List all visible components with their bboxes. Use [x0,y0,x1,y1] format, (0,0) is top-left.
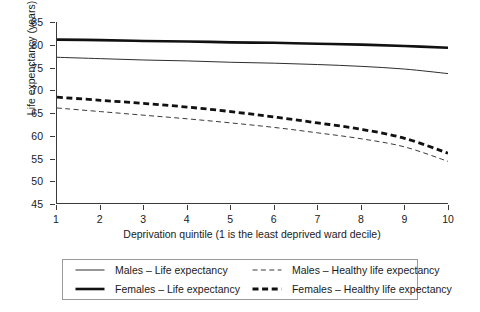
x-tick-mark [274,205,275,210]
x-tick-label: 1 [44,214,68,225]
y-tick-mark [50,45,55,46]
x-tick-mark [230,205,231,210]
x-tick-mark [361,205,362,210]
legend-label: Males – Healthy life expectancy [292,264,440,276]
y-tick-mark [50,90,55,91]
series-lines [57,22,448,203]
x-tick-mark [143,205,144,210]
x-tick-mark [100,205,101,210]
legend-entry: Males – Life expectancy [63,264,240,276]
y-tick-mark [50,68,55,69]
legend-line-swatch-icon [252,283,282,295]
y-tick-label: 45 [31,199,43,209]
chart-legend: Males – Life expectancyMales – Healthy l… [62,259,418,300]
legend-line-swatch-icon [75,264,105,276]
legend-label: Females – Life expectancy [115,283,240,295]
legend-label: Males – Life expectancy [115,264,228,276]
x-tick-mark [187,205,188,210]
plot-area [56,22,448,204]
x-tick-mark [404,205,405,210]
y-tick-mark [50,136,55,137]
y-tick-label: 50 [31,176,43,186]
x-tick-label: 9 [392,214,416,225]
legend-line-swatch-icon [75,283,105,295]
legend-entry: Females – Healthy life expectancy [240,283,452,295]
x-tick-mark [317,205,318,210]
y-tick-mark [50,22,55,23]
y-tick-label: 55 [31,154,43,164]
x-tick-label: 7 [305,214,329,225]
x-tick-label: 3 [131,214,155,225]
x-tick-label: 5 [218,214,242,225]
x-axis-ticks: 12345678910 [56,205,448,227]
legend-entry: Females – Life expectancy [63,283,240,295]
x-tick-label: 10 [436,214,460,225]
x-tick-mark [448,205,449,210]
chart-figure: 858075706560555045 Life expenctancy (yea… [0,0,480,312]
x-tick-mark [56,205,57,210]
x-tick-label: 6 [262,214,286,225]
series-line [57,108,448,161]
y-tick-mark [50,113,55,114]
y-tick-mark [50,159,55,160]
legend-entry: Males – Healthy life expectancy [240,264,452,276]
legend-label: Females – Healthy life expectancy [292,283,452,295]
x-tick-label: 4 [175,214,199,225]
series-line [57,57,448,73]
x-tick-label: 2 [88,214,112,225]
series-line [57,40,448,48]
y-tick-mark [50,204,55,205]
y-tick-mark [50,181,55,182]
y-axis-title: Life expenctancy (years) [25,0,37,148]
legend-line-swatch-icon [252,264,282,276]
x-tick-label: 8 [349,214,373,225]
x-axis-title: Deprivation quintile (1 is the least dep… [56,228,448,240]
